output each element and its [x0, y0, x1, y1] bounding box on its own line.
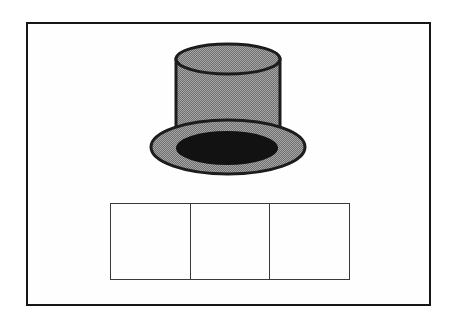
- hat-top-icon: [176, 44, 280, 74]
- sound-boxes: [110, 203, 350, 280]
- top-hat-illustration: [148, 41, 308, 179]
- sound-box-1: [110, 203, 191, 280]
- sound-box-3: [269, 203, 350, 280]
- flashcard: [26, 22, 431, 306]
- sound-box-2: [190, 203, 271, 280]
- hat-opening-icon: [176, 131, 278, 165]
